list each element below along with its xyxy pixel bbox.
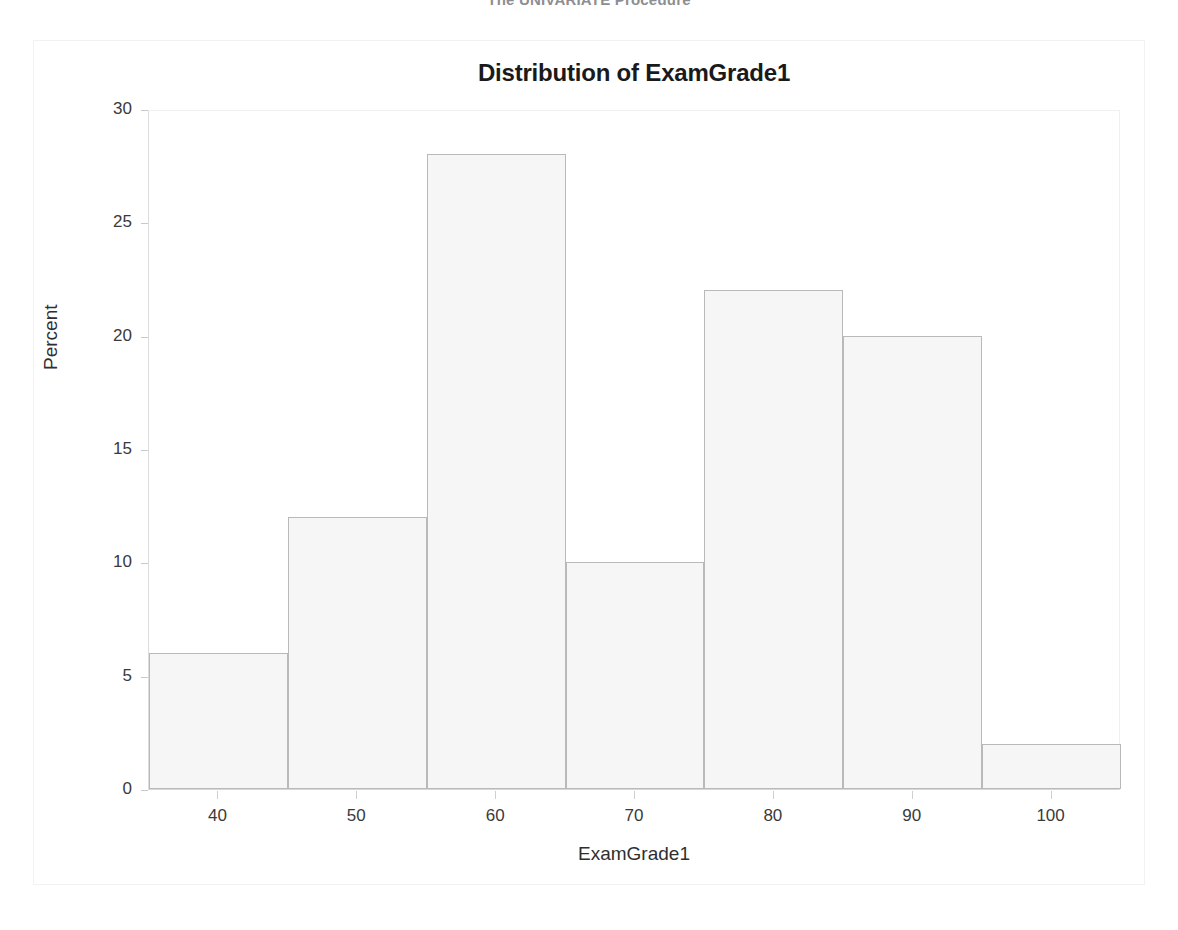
y-tick-label: 25 [72,212,132,232]
histogram-bar [149,653,288,789]
y-tick-label: 10 [72,552,132,572]
y-tick-label: 30 [72,99,132,119]
x-tick-mark [912,791,913,799]
y-tick-mark [141,790,148,791]
plot-area [148,110,1120,790]
x-tick-label: 90 [872,806,952,826]
x-tick-mark [217,791,218,799]
x-tick-mark [634,791,635,799]
x-tick-mark [773,791,774,799]
x-axis-title: ExamGrade1 [148,843,1120,865]
histogram-bar [843,336,982,789]
chart-title: Distribution of ExamGrade1 [148,59,1120,87]
y-tick-mark [141,563,148,564]
y-axis-title: Percent [40,305,62,370]
y-tick-mark [141,677,148,678]
histogram-bar [566,562,705,789]
y-tick-label: 5 [72,666,132,686]
y-tick-label: 0 [72,779,132,799]
x-tick-label: 60 [455,806,535,826]
histogram-bar [704,290,843,789]
x-tick-label: 50 [316,806,396,826]
x-tick-label: 80 [733,806,813,826]
y-tick-mark [141,450,148,451]
x-tick-label: 40 [177,806,257,826]
histogram-bar [427,154,566,789]
x-tick-mark [1051,791,1052,799]
y-tick-mark [141,337,148,338]
histogram-bar [982,744,1121,789]
y-tick-mark [141,110,148,111]
x-tick-label: 100 [1011,806,1091,826]
x-tick-label: 70 [594,806,674,826]
y-tick-label: 15 [72,439,132,459]
x-tick-mark [356,791,357,799]
x-tick-mark [495,791,496,799]
y-tick-label: 20 [72,326,132,346]
y-tick-mark [141,223,148,224]
procedure-heading: The UNIVARIATE Procedure [0,0,1178,8]
histogram-bar [288,517,427,789]
